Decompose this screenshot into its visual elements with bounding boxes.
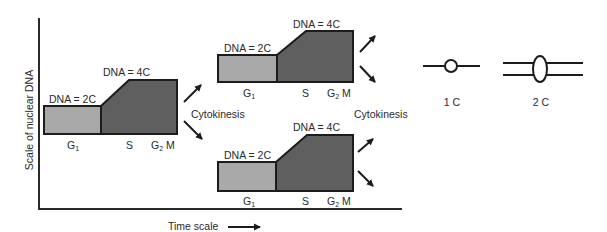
dna-4c-label: DNA = 4C — [103, 66, 150, 78]
y-axis-label: Scale of nuclear DNA — [23, 70, 35, 170]
phase-g1-label: G1 — [67, 139, 79, 152]
g1-block — [44, 106, 101, 134]
dna-4c-label: DNA = 4C — [293, 18, 340, 30]
phase-g2-label: G2 — [327, 195, 339, 208]
cell-cycle-dna-diagram: Scale of nuclear DNA Time scale DNA = 2C… — [0, 0, 607, 232]
cycle-parent: DNA = 2C DNA = 4C G1 S G2 M — [44, 66, 177, 152]
arrow-down-icon — [184, 121, 202, 139]
cycle-daughter-top: DNA = 2C DNA = 4C G1 S G2 M — [218, 18, 375, 100]
cytokinesis-label: Cytokinesis — [191, 108, 245, 120]
s-g2-m-block — [276, 135, 353, 191]
cytokinesis-label: Cytokinesis — [354, 108, 408, 120]
arrow-down-icon — [360, 66, 375, 82]
g1-block — [218, 162, 276, 191]
arrow-up-icon — [358, 139, 373, 152]
phase-m-label: M — [166, 139, 175, 151]
phase-s-label: S — [302, 87, 309, 99]
phase-g1-label: G1 — [243, 195, 255, 208]
cytokinesis-split-1: Cytokinesis — [184, 85, 245, 139]
phase-m-label: M — [342, 87, 351, 99]
legend-2c-label: 2 C — [533, 96, 550, 108]
x-axis-label: Time scale — [168, 220, 219, 232]
s-g2-m-block — [101, 80, 177, 134]
arrow-up-icon — [184, 85, 201, 102]
phase-m-label: M — [342, 195, 351, 207]
chromosome-legend: 1 C 2 C — [423, 56, 583, 108]
arrow-up-icon — [360, 36, 375, 52]
phase-s-label: S — [126, 139, 133, 151]
dna-2c-label: DNA = 2C — [224, 149, 271, 161]
chromosome-2c-icon — [503, 56, 583, 82]
cycle-daughter-bottom: DNA = 2C DNA = 4C G1 S G2 M — [218, 121, 373, 208]
phase-s-label: S — [302, 195, 309, 207]
dna-2c-label: DNA = 2C — [224, 42, 271, 54]
dna-2c-label: DNA = 2C — [49, 93, 96, 105]
g1-block — [218, 55, 277, 82]
phase-g2-label: G2 — [151, 139, 163, 152]
phase-g1-label: G1 — [243, 87, 255, 100]
s-g2-m-block — [277, 31, 353, 82]
arrow-down-icon — [358, 171, 373, 186]
dna-4c-label: DNA = 4C — [293, 121, 340, 133]
phase-g2-label: G2 — [327, 87, 339, 100]
chromosome-1c-icon — [423, 60, 480, 72]
legend-1c-label: 1 C — [444, 96, 461, 108]
